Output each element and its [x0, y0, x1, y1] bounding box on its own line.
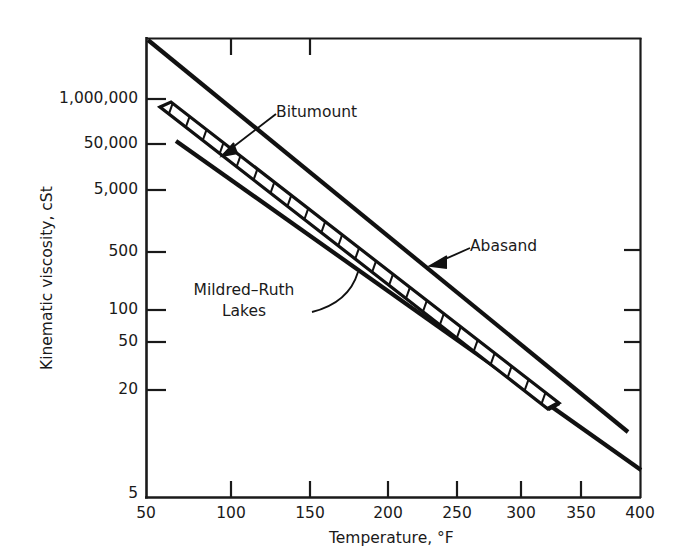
y-axis-label: Kinematic viscosity, cSt — [38, 186, 56, 370]
y-tick-label-50: 50 — [18, 334, 138, 350]
x-tick-label-150: 150 — [280, 506, 340, 522]
x-tick-label-250: 250 — [427, 506, 487, 522]
abasand-line — [148, 40, 628, 432]
x-tick-marks-top — [231, 39, 310, 55]
abasand-arrowhead — [430, 256, 447, 268]
y-tick-label-1000000: 1,000,000 — [18, 91, 138, 107]
y-tick-label-50000: 50,000 — [18, 136, 138, 152]
x-axis-label: Temperature, °F — [329, 531, 454, 547]
plot-axes — [145, 37, 642, 499]
y-tick-label-20: 20 — [18, 382, 138, 398]
series-label-mildred-ruth-line1: Mildred–Ruth — [176, 283, 312, 299]
y-axis-label-wrap: Kinematic viscosity, cSt — [0, 0, 1, 1]
y-tick-marks — [147, 99, 166, 390]
viscosity-temperature-chart: 1,000,000 50,000 5,000 500 100 50 20 5 5… — [0, 0, 684, 560]
mildred-ruth-leader-curve — [312, 272, 358, 312]
y-tick-marks-right — [624, 250, 640, 390]
series-label-bitumount: Bitumount — [276, 105, 357, 121]
mildred-ruth-leader — [312, 272, 358, 312]
y-tick-label-100: 100 — [18, 302, 138, 318]
x-tick-label-400: 400 — [610, 506, 670, 522]
series-label-abasand: Abasand — [470, 239, 537, 255]
x-tick-marks — [231, 481, 581, 497]
bitumount-band — [160, 102, 559, 409]
x-tick-label-200: 200 — [358, 506, 418, 522]
y-tick-label-5000: 5,000 — [18, 182, 138, 198]
series-abasand — [148, 40, 628, 432]
abasand-leader — [430, 248, 470, 268]
x-tick-label-300: 300 — [491, 506, 551, 522]
x-tick-label-50: 50 — [116, 506, 176, 522]
x-tick-label-100: 100 — [201, 506, 261, 522]
x-tick-label-350: 350 — [551, 506, 611, 522]
series-label-mildred-ruth-line2: Lakes — [176, 304, 312, 320]
y-tick-label-5: 5 — [18, 486, 138, 502]
y-tick-label-500: 500 — [18, 244, 138, 260]
chart-canvas — [0, 0, 684, 560]
